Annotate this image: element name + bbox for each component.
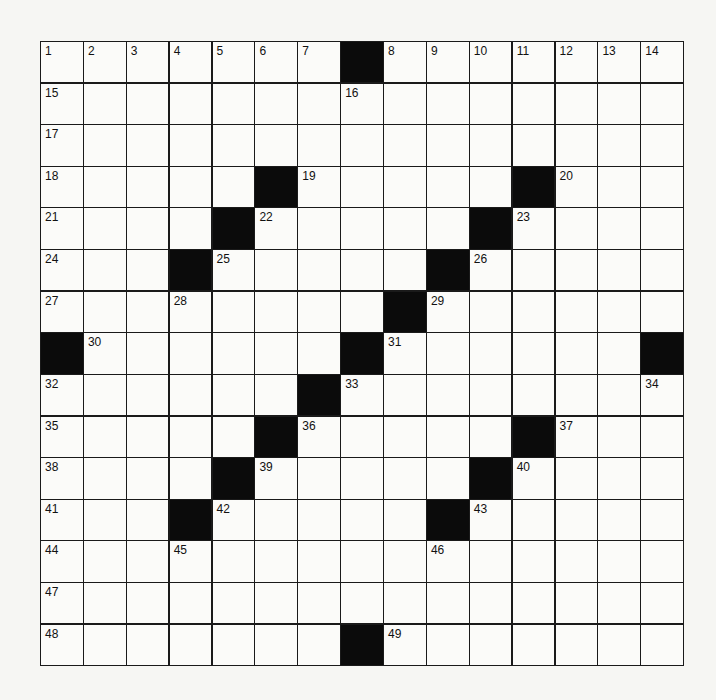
grid-cell[interactable] <box>556 125 598 165</box>
grid-cell[interactable] <box>427 208 469 248</box>
grid-cell[interactable]: 28 <box>170 292 212 332</box>
grid-cell[interactable] <box>127 125 169 165</box>
grid-cell[interactable] <box>513 500 555 540</box>
grid-cell[interactable] <box>598 417 640 457</box>
grid-cell[interactable] <box>341 500 383 540</box>
grid-cell[interactable] <box>84 125 126 165</box>
grid-cell[interactable]: 48 <box>41 625 83 665</box>
grid-cell[interactable]: 13 <box>598 42 640 82</box>
grid-cell[interactable] <box>213 625 255 665</box>
grid-cell[interactable] <box>341 417 383 457</box>
grid-cell[interactable] <box>427 84 469 124</box>
grid-cell[interactable] <box>598 333 640 373</box>
grid-cell[interactable] <box>298 125 340 165</box>
grid-cell[interactable] <box>556 250 598 290</box>
grid-cell[interactable] <box>213 167 255 207</box>
grid-cell[interactable] <box>641 125 683 165</box>
grid-cell[interactable]: 43 <box>470 500 512 540</box>
grid-cell[interactable]: 47 <box>41 583 83 623</box>
grid-cell[interactable] <box>170 208 212 248</box>
grid-cell[interactable] <box>298 541 340 581</box>
grid-cell[interactable] <box>84 375 126 415</box>
grid-cell[interactable]: 15 <box>41 84 83 124</box>
grid-cell[interactable] <box>255 583 297 623</box>
grid-cell[interactable] <box>127 625 169 665</box>
grid-cell[interactable]: 5 <box>213 42 255 82</box>
grid-cell[interactable] <box>84 583 126 623</box>
grid-cell[interactable]: 46 <box>427 541 469 581</box>
grid-cell[interactable] <box>598 458 640 498</box>
grid-cell[interactable] <box>598 292 640 332</box>
grid-cell[interactable]: 11 <box>513 42 555 82</box>
grid-cell[interactable] <box>170 125 212 165</box>
grid-cell[interactable] <box>170 375 212 415</box>
grid-cell[interactable] <box>213 375 255 415</box>
grid-cell[interactable]: 33 <box>341 375 383 415</box>
grid-cell[interactable] <box>213 541 255 581</box>
grid-cell[interactable] <box>341 167 383 207</box>
grid-cell[interactable] <box>513 125 555 165</box>
grid-cell[interactable] <box>170 625 212 665</box>
grid-cell[interactable] <box>427 458 469 498</box>
grid-cell[interactable] <box>427 417 469 457</box>
grid-cell[interactable] <box>213 417 255 457</box>
grid-cell[interactable]: 16 <box>341 84 383 124</box>
grid-cell[interactable] <box>427 625 469 665</box>
grid-cell[interactable] <box>84 84 126 124</box>
grid-cell[interactable] <box>598 208 640 248</box>
grid-cell[interactable] <box>641 292 683 332</box>
grid-cell[interactable] <box>213 333 255 373</box>
grid-cell[interactable] <box>127 417 169 457</box>
grid-cell[interactable]: 3 <box>127 42 169 82</box>
grid-cell[interactable] <box>513 375 555 415</box>
grid-cell[interactable] <box>84 417 126 457</box>
grid-cell[interactable] <box>341 458 383 498</box>
grid-cell[interactable] <box>213 84 255 124</box>
grid-cell[interactable] <box>255 292 297 332</box>
grid-cell[interactable]: 29 <box>427 292 469 332</box>
grid-cell[interactable] <box>298 84 340 124</box>
grid-cell[interactable] <box>598 541 640 581</box>
grid-cell[interactable] <box>341 292 383 332</box>
grid-cell[interactable] <box>127 500 169 540</box>
grid-cell[interactable] <box>127 250 169 290</box>
grid-cell[interactable] <box>298 250 340 290</box>
grid-cell[interactable] <box>556 84 598 124</box>
grid-cell[interactable] <box>641 208 683 248</box>
grid-cell[interactable] <box>384 541 426 581</box>
grid-cell[interactable] <box>598 375 640 415</box>
grid-cell[interactable] <box>598 167 640 207</box>
grid-cell[interactable] <box>255 375 297 415</box>
grid-cell[interactable] <box>470 333 512 373</box>
grid-cell[interactable] <box>513 84 555 124</box>
grid-cell[interactable] <box>127 458 169 498</box>
grid-cell[interactable]: 32 <box>41 375 83 415</box>
grid-cell[interactable] <box>298 458 340 498</box>
grid-cell[interactable] <box>341 583 383 623</box>
grid-cell[interactable] <box>598 250 640 290</box>
grid-cell[interactable] <box>598 125 640 165</box>
grid-cell[interactable] <box>641 500 683 540</box>
grid-cell[interactable] <box>427 333 469 373</box>
grid-cell[interactable] <box>384 583 426 623</box>
grid-cell[interactable]: 23 <box>513 208 555 248</box>
grid-cell[interactable] <box>384 500 426 540</box>
grid-cell[interactable] <box>556 333 598 373</box>
grid-cell[interactable]: 30 <box>84 333 126 373</box>
grid-cell[interactable] <box>556 375 598 415</box>
grid-cell[interactable] <box>556 625 598 665</box>
grid-cell[interactable] <box>127 208 169 248</box>
grid-cell[interactable] <box>170 417 212 457</box>
grid-cell[interactable] <box>470 292 512 332</box>
grid-cell[interactable] <box>556 583 598 623</box>
grid-cell[interactable] <box>170 458 212 498</box>
grid-cell[interactable] <box>470 125 512 165</box>
grid-cell[interactable] <box>384 375 426 415</box>
grid-cell[interactable] <box>84 625 126 665</box>
grid-cell[interactable] <box>598 84 640 124</box>
grid-cell[interactable] <box>427 375 469 415</box>
grid-cell[interactable] <box>298 500 340 540</box>
grid-cell[interactable]: 18 <box>41 167 83 207</box>
grid-cell[interactable]: 8 <box>384 42 426 82</box>
grid-cell[interactable]: 12 <box>556 42 598 82</box>
